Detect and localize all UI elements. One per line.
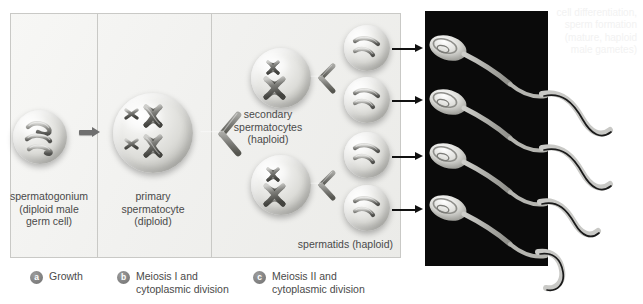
caption-spermatids: spermatids (haploid)	[265, 238, 393, 251]
caption-secondary-spermatocytes: secondary spermatocytes (haploid)	[216, 108, 320, 146]
sperm-photo-panel	[425, 11, 548, 266]
caption-primary-spermatocyte: primary spermatocyte (diploid)	[110, 190, 196, 228]
legend-marker-c: c	[253, 271, 266, 284]
meiosis-two-split-connector-1	[308, 58, 336, 100]
chromosomes-secondary-spermatocyte-1	[262, 58, 302, 100]
legend-item-a: Growth	[49, 270, 119, 283]
chromosomes-spermatid-3	[352, 142, 384, 168]
chromosomes-spermatid-4	[352, 195, 384, 221]
legend-marker-b: b	[117, 271, 130, 284]
legend-item-b: Meiosis I and cytoplasmic division	[136, 270, 266, 295]
figure-root: spermatogonium (diploid male germ cell)	[0, 0, 643, 304]
differentiation-arrow-3	[392, 156, 416, 158]
photo-caption: cell differentiation, sperm formation (m…	[533, 7, 637, 57]
chromosomes-spermatid-1	[352, 35, 384, 61]
chromosomes-secondary-spermatocyte-2	[262, 165, 302, 207]
meiosis-two-split-connector-2	[308, 165, 336, 207]
legend-marker-a: a	[30, 271, 43, 284]
chromosomes-spermatid-2	[352, 87, 384, 113]
differentiation-arrow-1	[392, 48, 416, 50]
differentiation-arrow-2	[392, 100, 416, 102]
chromosomes-primary-spermatocyte	[124, 104, 184, 164]
growth-arrow	[79, 130, 93, 135]
legend-item-c: Meiosis II and cytoplasmic division	[272, 270, 402, 295]
differentiation-arrow-4	[392, 209, 416, 211]
caption-spermatogonium: spermatogonium (diploid male germ cell)	[6, 190, 92, 228]
chromosomes-spermatogonium	[22, 118, 60, 158]
